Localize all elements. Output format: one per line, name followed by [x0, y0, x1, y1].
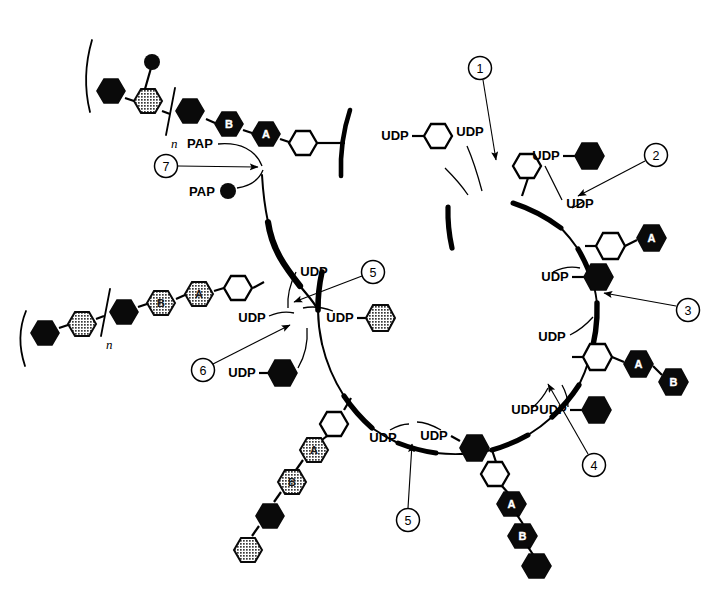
udp-label-donor-5b: UDP — [420, 428, 448, 443]
step-4-arrow — [548, 384, 588, 454]
step-3-arrow — [604, 293, 676, 306]
hexagon-black — [176, 99, 204, 123]
biosynthesis-scheme-svg: 1 UDP UDP 2 UDP — [0, 0, 724, 591]
hexagon-white — [596, 233, 625, 259]
step-5b-arrow — [408, 444, 412, 508]
released-polymer-chain-sulfated: A B n — [86, 40, 350, 176]
step-5b-release-curve — [390, 424, 409, 430]
chain-link — [274, 492, 281, 502]
step-1-arrow — [483, 80, 496, 160]
chain-link — [517, 515, 523, 524]
hexagon-black — [584, 264, 613, 290]
step-number-1: 1 — [477, 62, 484, 76]
step-6-arrow — [213, 325, 290, 364]
chain-link — [138, 304, 147, 307]
hexagon-white — [289, 131, 317, 155]
released-polymer-chain-left: A B n — [21, 276, 264, 366]
step-number-6: 6 — [200, 364, 207, 378]
step-2-donor-curve — [545, 166, 562, 200]
hexagon-label-B: B — [670, 376, 678, 388]
chain-link — [253, 282, 264, 288]
chain-link — [176, 295, 185, 299]
membrane-arc-segment — [398, 443, 436, 453]
step-1-attack-curve — [445, 168, 468, 195]
hexagon-black — [460, 435, 489, 461]
hexagon-label-A: A — [648, 232, 656, 244]
hexagon-label-B: B — [225, 118, 233, 130]
udp-label-release-6: UDP — [238, 310, 266, 325]
step-3-release-curve — [570, 317, 593, 335]
chain-link — [206, 119, 215, 123]
membrane-arc-segment — [262, 175, 268, 222]
polymer-subscript-n: n — [171, 136, 178, 151]
udp-bond — [451, 436, 460, 441]
step-6-group: 6 UDP UDP — [192, 310, 308, 386]
membrane-arc-segment — [492, 435, 528, 450]
hexagon-label-A: A — [508, 498, 516, 510]
udp-label-release-5b: UDP — [369, 430, 397, 445]
step-3-group: 3 UDP UDP — [538, 264, 699, 344]
membrane-chain-bottom-left: A B — [234, 398, 351, 562]
bracket-left — [86, 40, 92, 112]
udp-label-release-4: UDP — [511, 402, 539, 417]
membrane-chain-right-lower: A B — [572, 344, 688, 395]
chain-link — [653, 366, 662, 375]
pap-dot — [220, 183, 236, 199]
step-5-group: 5 UDP UDP — [288, 261, 395, 332]
chain-link — [59, 325, 68, 328]
udp-label-donor-4: UDP — [539, 402, 567, 417]
udp-label-donor-6: UDP — [228, 365, 256, 380]
udp-label-release-3: UDP — [538, 329, 566, 344]
hexagon-label-A: A — [195, 288, 203, 300]
hexagon-white — [583, 344, 612, 370]
step-5b-group: 5 UDP UDP — [369, 422, 489, 532]
chain-link — [96, 316, 104, 319]
step-number-4: 4 — [591, 459, 598, 473]
membrane-arc-segment — [322, 344, 344, 396]
free-udp-black-hexagon-5b: UDP — [420, 428, 489, 461]
chain-link — [296, 460, 303, 470]
step-1-group: 1 UDP UDP — [381, 57, 541, 197]
step-2-group: 2 UDP UDP A — [532, 143, 667, 259]
udp-label-donor-2: UDP — [532, 148, 560, 163]
chain-link — [625, 240, 637, 246]
hexagon-label-B: B — [519, 530, 527, 542]
sulfate-dot — [144, 54, 160, 70]
hexagon-white — [320, 412, 348, 436]
membrane-arc-segment — [561, 228, 578, 249]
step-number-3: 3 — [685, 304, 692, 318]
step-number-7: 7 — [163, 160, 170, 174]
bracket-right — [101, 289, 110, 336]
chain-link — [243, 130, 252, 133]
udp-label-release-2: UDP — [566, 196, 594, 211]
membrane-arc-segment — [268, 222, 300, 286]
hexagon-label-A: A — [262, 128, 270, 140]
free-pap-donor-7: PAP — [189, 183, 236, 199]
hexagon-white — [481, 462, 509, 486]
bracket-right — [166, 88, 175, 135]
hexagon-label-A: A — [635, 358, 643, 370]
diagram-canvas: 1 UDP UDP 2 UDP — [0, 0, 724, 591]
hexagon-label-B: B — [157, 297, 165, 309]
free-udp-black-hexagon-2: UDP — [532, 143, 604, 169]
step-5-arrow — [294, 276, 362, 302]
pap-label-release-7: PAP — [187, 136, 213, 151]
step-7-donor-curve — [237, 170, 263, 188]
membrane-chain-bottom-center: A B — [481, 450, 551, 578]
membrane-arc-segment — [318, 310, 322, 344]
polymer-subscript-n: n — [106, 337, 113, 352]
free-udp-black-hexagon-6: UDP — [228, 360, 297, 386]
hexagon-label-A: A — [310, 444, 318, 456]
hexagon-white — [224, 276, 252, 300]
udp-label-release-1: UDP — [456, 124, 484, 139]
membrane-chain-right-upper: A — [585, 225, 666, 259]
hexagon-black — [575, 143, 604, 169]
sulfate-bond — [145, 68, 151, 89]
free-udp-gray-hexagon-5: UDP — [326, 305, 395, 331]
udp-label-donor-5: UDP — [326, 310, 354, 325]
udp-label-release-5: UDP — [300, 264, 328, 279]
hexagon-gray — [366, 305, 395, 331]
udp-label-donor-1: UDP — [381, 128, 409, 143]
step-number-2: 2 — [653, 149, 660, 163]
pap-label-donor-7: PAP — [189, 184, 215, 199]
